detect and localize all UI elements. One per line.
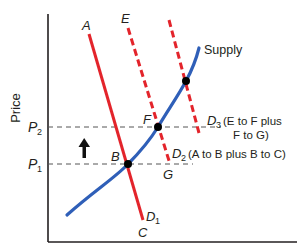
d3-label: D 3 (E to F plus F to G) — [207, 113, 282, 141]
price-increase-arrow-icon — [79, 138, 91, 158]
p1-label: P 1 — [28, 156, 42, 174]
y-axis-label: Price — [8, 93, 23, 123]
svg-text:3: 3 — [216, 120, 221, 130]
demand-curve-d2 — [128, 28, 170, 164]
svg-text:F to G): F to G) — [233, 129, 269, 141]
svg-text:2: 2 — [181, 153, 186, 163]
svg-text:D: D — [146, 209, 155, 224]
supply-demand-diagram: Price P 2 P 1 A E B F G C Supply D 1 D 2 — [0, 0, 303, 251]
svg-text:D: D — [172, 146, 181, 161]
point-b-label: B — [111, 149, 120, 164]
d2-label: D 2 (A to B plus B to C) — [172, 146, 286, 163]
point-f-label: F — [143, 112, 152, 127]
point-d3-supply-marker — [182, 77, 190, 85]
point-g-label: G — [163, 167, 173, 182]
svg-text:1: 1 — [155, 216, 160, 226]
svg-text:(E to F plus: (E to F plus — [223, 115, 282, 127]
d1-label: D 1 — [146, 209, 160, 226]
supply-label: Supply — [204, 43, 243, 57]
svg-text:1: 1 — [37, 164, 42, 174]
point-c-label: C — [138, 225, 148, 240]
svg-text:D: D — [207, 113, 216, 128]
point-b-marker — [124, 160, 132, 168]
point-f-marker — [154, 123, 162, 131]
svg-text:(A to B plus B to C): (A to B plus B to C) — [188, 148, 286, 160]
point-a-label: A — [81, 18, 91, 33]
point-e-label: E — [121, 11, 130, 26]
p2-label: P 2 — [28, 119, 42, 137]
svg-text:2: 2 — [37, 127, 42, 137]
demand-curve-d3 — [169, 20, 199, 133]
